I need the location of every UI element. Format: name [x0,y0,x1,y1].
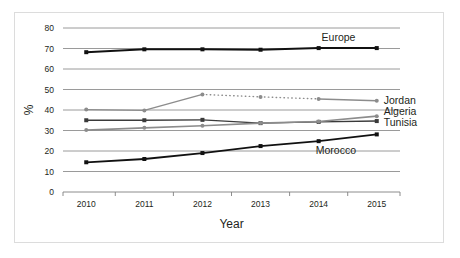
series-tunisia [84,114,379,132]
y-axis-tick-label: 10 [45,167,55,177]
data-point [259,144,263,148]
data-point [259,121,263,125]
series-labels: EuropeJordanAlgeriaTunisiaMorocco [316,31,418,156]
x-axis: 201020112012201320142015 [63,192,400,209]
series-europe [84,46,379,54]
series-segment [144,94,202,110]
y-axis-tick-label: 70 [45,44,55,54]
data-point [375,99,379,103]
series-jordan [84,92,379,112]
y-axis-tick-label: 80 [45,23,55,33]
series-label-europe: Europe [322,31,356,43]
y-axis-tick-label: 50 [45,85,55,95]
data-point [317,46,321,50]
y-axis-tick-label: 0 [49,187,54,197]
x-axis-tick-label: 2012 [193,199,212,209]
series-segment [261,141,319,146]
data-point [317,139,321,143]
data-point [317,119,321,123]
x-axis-tick-label: 2011 [135,199,154,209]
series-segment [86,110,144,111]
line-chart: 01020304050607080%2010201120122013201420… [15,13,443,242]
series-segment [144,126,202,128]
series-segment [319,134,377,141]
series-segment [202,146,260,153]
series-segment [86,128,144,130]
data-point [200,92,204,96]
x-axis-tick-label: 2015 [367,199,386,209]
series-segment [202,94,260,96]
y-axis-tick-label: 30 [45,126,55,136]
data-point [200,118,204,122]
data-point [375,132,379,136]
data-point [84,128,88,132]
data-point [375,46,379,50]
chart-figure: 01020304050607080%2010201120122013201420… [14,12,444,243]
data-point [375,119,379,123]
series-segment [86,49,144,52]
y-axis-tick-label: 60 [45,64,55,74]
series-segment [202,123,260,126]
series-segment [144,153,202,159]
data-point [84,160,88,164]
y-axis-tick-label: 40 [45,105,55,115]
data-point [142,157,146,161]
series-segment [319,99,377,101]
series-label-tunisia: Tunisia [384,116,418,128]
data-point [142,47,146,51]
x-axis-title: Year [219,217,243,231]
data-point [84,118,88,122]
series-label-jordan: Jordan [384,94,416,106]
series-segment [261,121,319,123]
data-point [142,118,146,122]
x-axis-tick-label: 2013 [251,199,270,209]
x-axis-tick-label: 2014 [309,199,328,209]
data-point [259,95,263,99]
data-point [375,114,379,118]
data-point [317,97,321,101]
x-axis-tick-label: 2010 [77,199,96,209]
data-point [200,151,204,155]
series-label-morocco: Morocco [316,144,356,156]
y-axis-tick-label: 20 [45,146,55,156]
data-point [142,108,146,112]
series-segment [86,159,144,162]
y-axis-title: % [22,104,36,115]
data-point [200,47,204,51]
data-point [200,124,204,128]
data-point [259,48,263,52]
series-segment [202,120,260,123]
data-point [84,50,88,54]
data-point [84,108,88,112]
series-segment [261,97,319,99]
data-point [142,126,146,130]
